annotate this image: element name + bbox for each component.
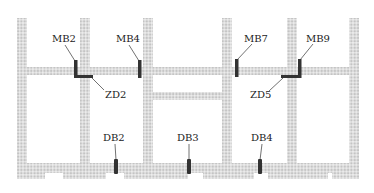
label-db3: DB3	[177, 132, 199, 143]
wall-column-5	[287, 18, 297, 168]
label-mb2: MB2	[52, 33, 76, 44]
damper-zd2	[74, 75, 93, 78]
leader-mb9	[300, 44, 313, 60]
label-mb7: MB7	[244, 33, 268, 44]
label-zd5: ZD5	[250, 89, 271, 100]
damper-mb7	[235, 59, 239, 77]
wall-step-2	[63, 173, 106, 179]
wall-column-2	[80, 18, 90, 168]
wall-step-6	[332, 173, 359, 179]
damper-mb4	[138, 60, 142, 78]
wall-column-4	[222, 18, 232, 168]
leader-db2	[115, 144, 116, 160]
label-db4: DB4	[251, 132, 273, 143]
wall-band-upper	[17, 67, 359, 75]
leader-mb7	[237, 44, 252, 60]
wall-step-4	[203, 173, 254, 179]
damper-db3	[187, 159, 191, 174]
label-mb4: MB4	[116, 33, 140, 44]
leader-mb2	[65, 45, 75, 61]
wall-band-middle	[153, 92, 222, 100]
leader-mb4	[129, 45, 139, 61]
label-mb9: MB9	[306, 33, 330, 44]
label-db2: DB2	[103, 132, 125, 143]
dampers	[74, 59, 302, 174]
wall-column-3	[143, 18, 153, 168]
leader-db4	[260, 144, 262, 160]
damper-zd5	[281, 75, 301, 78]
label-zd2: ZD2	[105, 89, 126, 100]
damper-db2	[114, 159, 118, 174]
wall-column-6	[349, 18, 359, 178]
wall-step-5	[268, 173, 328, 179]
wall-step-1	[17, 173, 45, 179]
structural-diagram: MB2 MB4 ZD2 MB7 MB9 ZD5 DB2 DB3 DB4	[0, 0, 374, 193]
wall-step-3	[124, 173, 188, 179]
wall-column-1	[17, 18, 27, 178]
damper-db4	[258, 159, 262, 174]
leader-zd2	[92, 78, 104, 90]
